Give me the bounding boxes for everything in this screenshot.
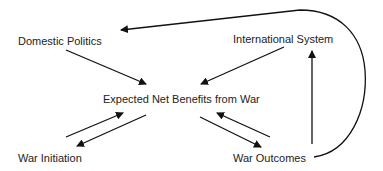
node-international-system: International System xyxy=(233,33,333,45)
arrow-expected-to-initiation xyxy=(77,115,146,146)
arrow-initiation-to-expected xyxy=(66,113,123,137)
node-war-initiation: War Initiation xyxy=(18,152,82,164)
arrow-outcomes-to-expected xyxy=(217,113,270,137)
diagram-edges xyxy=(0,0,383,171)
arrow-expected-to-outcomes xyxy=(200,117,261,147)
node-expected-net-benefits: Expected Net Benefits from War xyxy=(103,93,260,105)
node-domestic-politics: Domestic Politics xyxy=(18,35,102,47)
node-war-outcomes: War Outcomes xyxy=(233,152,306,164)
arrow-domestic-to-expected xyxy=(66,50,146,84)
arrow-international-to-expected xyxy=(201,47,284,84)
